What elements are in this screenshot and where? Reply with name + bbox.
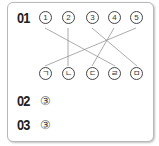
question-3-answer: ③ (40, 118, 51, 132)
top-option-3: 3 (86, 11, 99, 24)
top-option-5: 5 (130, 11, 143, 24)
question-2-answer: ③ (40, 94, 51, 108)
question-3-number: 03 (17, 116, 29, 133)
top-option-4: 4 (108, 11, 121, 24)
top-option-2: 2 (62, 11, 75, 24)
top-option-1: 1 (39, 11, 52, 24)
bottom-option-giyeok: ㄱ (39, 67, 52, 80)
bottom-option-digeut: ㄷ (86, 67, 99, 80)
question-1-number: 01 (17, 9, 29, 26)
bottom-option-nieun: ㄴ (62, 67, 75, 80)
bottom-option-mieum: ㅁ (130, 67, 143, 80)
question-2-number: 02 (17, 92, 29, 109)
bottom-option-rieul: ㄹ (108, 67, 121, 80)
